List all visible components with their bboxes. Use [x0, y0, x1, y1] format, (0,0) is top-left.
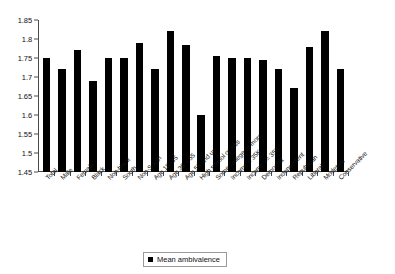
y-axis-tick-label: 1.75 — [18, 54, 32, 63]
bar — [136, 43, 144, 172]
legend-label: Mean ambivalence — [157, 255, 220, 264]
y-axis-tick-label: 1.45 — [18, 168, 32, 177]
y-axis-tick-label: 1.8 — [22, 35, 32, 44]
y-axis-tick-label: 1.5 — [22, 149, 32, 158]
bar — [58, 69, 66, 172]
y-axis-tick-label: 1.85 — [18, 16, 32, 25]
bars-layer — [39, 20, 348, 172]
bar-chart: 1.851.81.751.71.651.61.551.51.45 TotalMa… — [0, 0, 395, 274]
bar — [74, 50, 82, 172]
bar — [89, 81, 97, 172]
y-axis-labels: 1.851.81.751.71.651.61.551.51.45 — [0, 20, 32, 172]
bar — [43, 58, 51, 172]
y-axis-tick-label: 1.6 — [22, 111, 32, 120]
bar — [105, 58, 113, 172]
y-axis-tick-label: 1.65 — [18, 92, 32, 101]
bar — [321, 31, 329, 172]
y-axis-tick-label: 1.7 — [22, 73, 32, 82]
chart-legend: Mean ambivalence — [143, 252, 227, 267]
y-axis-tick-label: 1.55 — [18, 130, 32, 139]
legend-swatch-mean-ambivalence — [148, 257, 153, 262]
x-axis-labels: TotalMaleFemaleBlackNon-blackSouthNon-So… — [39, 176, 379, 246]
bar — [167, 31, 175, 172]
